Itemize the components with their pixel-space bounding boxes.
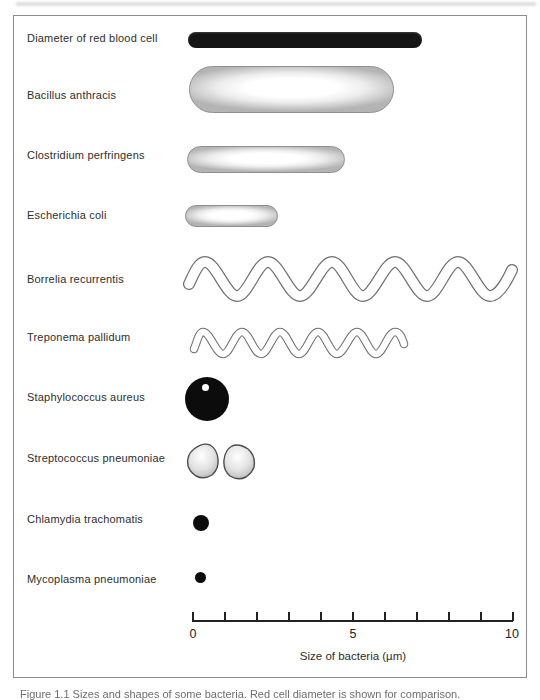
axis-title: Size of bacteria (µm) bbox=[253, 650, 453, 662]
treponema-pallidum-shape bbox=[194, 332, 404, 354]
axis-tick-7 bbox=[416, 612, 418, 621]
borrelia-recurrentis-shape bbox=[189, 262, 512, 296]
axis-tick-9 bbox=[480, 612, 482, 621]
axis-tick-6 bbox=[384, 612, 386, 621]
axis-tick-2 bbox=[256, 612, 258, 621]
axis-tick-3 bbox=[288, 612, 290, 621]
figure-caption-clipped: Figure 1.1 Sizes and shapes of some bact… bbox=[20, 688, 460, 700]
axis-tick-5 bbox=[352, 612, 354, 621]
axis-tick-8 bbox=[448, 612, 450, 621]
staph-highlight-dot bbox=[202, 384, 209, 391]
axis-tick-0 bbox=[192, 612, 194, 621]
chlamydia-trachomatis-shape bbox=[193, 515, 209, 531]
axis-tick-10 bbox=[512, 612, 514, 621]
mycoplasma-pneumoniae-shape bbox=[195, 572, 206, 583]
axis-tick-4 bbox=[320, 612, 322, 621]
axis-label-10: 10 bbox=[500, 627, 524, 641]
axis-label-5: 5 bbox=[345, 627, 361, 641]
axis-tick-1 bbox=[224, 612, 226, 621]
axis-label-0: 0 bbox=[185, 627, 201, 641]
streptococcus-pneumoniae-shape bbox=[188, 444, 255, 479]
staphylococcus-aureus-shape bbox=[185, 377, 229, 421]
